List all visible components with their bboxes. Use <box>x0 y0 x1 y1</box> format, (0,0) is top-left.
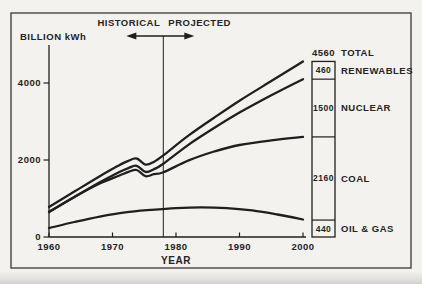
oil-gas-coal-curve <box>49 137 303 212</box>
x-tick-label: 2000 <box>291 241 314 252</box>
oil-gas-curve <box>49 207 303 228</box>
energy-projection-chart: BILLION kWhYEAR4000200001960197019801990… <box>0 0 422 284</box>
segment-value: 1500 <box>313 103 334 113</box>
segment-value: 460 <box>316 65 332 75</box>
total-curve <box>49 61 303 207</box>
total-value: 4560 <box>312 47 335 58</box>
y-tick-label: 4000 <box>18 77 41 88</box>
segment-value: 440 <box>316 224 332 234</box>
x-axis-title: YEAR <box>161 255 191 266</box>
segment-label: NUCLEAR <box>341 102 391 113</box>
y-axis-title: BILLION kWh <box>20 31 86 42</box>
x-tick-label: 1980 <box>164 241 187 252</box>
segment-value: 2160 <box>313 173 334 183</box>
end-bar <box>312 61 335 237</box>
total-label: TOTAL <box>341 47 374 58</box>
segment-label: OIL & GAS <box>341 223 394 234</box>
x-tick-label: 1970 <box>101 241 124 252</box>
x-tick-label: 1960 <box>37 241 60 252</box>
range-arrow-right-head <box>184 32 194 39</box>
segment-label: COAL <box>341 173 370 184</box>
y-tick-label: 2000 <box>18 154 41 165</box>
segment-label: RENEWABLES <box>341 65 413 76</box>
range-arrow-left-head <box>126 32 136 39</box>
projected-label: PROJECTED <box>168 17 231 28</box>
report-page: BILLION kWhYEAR4000200001960197019801990… <box>0 0 422 284</box>
historical-label: HISTORICAL <box>97 17 160 28</box>
x-tick-label: 1990 <box>228 241 251 252</box>
